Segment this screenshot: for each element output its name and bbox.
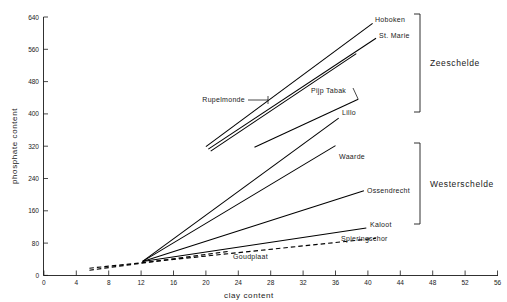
x-tick-label-24: 24 [235, 279, 243, 286]
y-axis-title: phosphate content [10, 108, 19, 184]
phosphate-clay-chart: 640 560 480 400 320 240 160 80 0 [0, 0, 507, 302]
group-label-zeeschelde: Zeeschelde [430, 58, 480, 68]
x-tick-label-8: 8 [107, 279, 111, 286]
series-label-ossendrecht: Ossendrecht [367, 187, 410, 194]
x-tick-label-48: 48 [429, 279, 437, 286]
series-lines [89, 23, 376, 270]
x-tick-label-28: 28 [267, 279, 275, 286]
series-line-st-marie [208, 38, 376, 149]
series-label-waarde: Waarde [339, 153, 365, 160]
series-line-goudplaat [89, 251, 230, 270]
series-line-lillo [143, 118, 339, 261]
x-tick-label-20: 20 [202, 279, 210, 286]
y-tick-label-640: 640 [28, 14, 39, 21]
x-tick-label-4: 4 [74, 279, 78, 286]
x-tick-label-32: 32 [299, 279, 307, 286]
y-tick-group: 640 560 480 400 320 240 160 80 0 [28, 14, 48, 279]
y-tick-label-80: 80 [32, 240, 40, 247]
series-label-kaloot: Kaloot [370, 221, 392, 228]
series-label-hoboken: Hoboken [375, 16, 405, 23]
series-line-hoboken [206, 23, 373, 146]
x-tick-label-12: 12 [137, 279, 145, 286]
series-label-st-marie: St. Marie [379, 32, 410, 39]
series-line-pijp-tabak [255, 99, 359, 147]
y-tick-label-560: 560 [28, 46, 39, 53]
series-line-waarde [143, 146, 336, 262]
series-label-pijp-tabak: Pijp Tabak [311, 87, 346, 95]
x-tick-label-52: 52 [461, 279, 469, 286]
pijp-tabak-leader [353, 88, 358, 99]
series-label-spieringschor: Spieringschor [341, 235, 388, 243]
x-tick-label-0: 0 [42, 279, 46, 286]
y-tick-label-240: 240 [28, 175, 39, 182]
series-label-lillo: Lillo [342, 109, 356, 116]
chart-canvas: 640 560 480 400 320 240 160 80 0 [0, 0, 507, 302]
series-label-goudplaat: Goudplaat [233, 253, 268, 261]
group-label-westerschelde: Westerschelde [430, 179, 494, 189]
series-label-rupelmonde: Rupelmonde [202, 96, 245, 104]
y-tick-label-160: 160 [28, 207, 39, 214]
x-tick-label-16: 16 [170, 279, 178, 286]
x-tick-label-44: 44 [397, 279, 405, 286]
y-tick-label-480: 480 [28, 78, 39, 85]
group-bracket-zeeschelde: Zeeschelde [414, 14, 480, 112]
y-tick-label-320: 320 [28, 143, 39, 150]
series-labels: Hoboken St. Marie Rupelmonde Pijp Tabak … [202, 16, 410, 261]
x-tick-label-40: 40 [364, 279, 372, 286]
group-bracket-westerschelde: Westerschelde [414, 143, 494, 224]
x-axis-title: clay content [224, 291, 274, 300]
y-tick-label-0: 0 [35, 272, 39, 279]
x-tick-label-56: 56 [494, 279, 502, 286]
series-line-ossendrecht [143, 191, 364, 262]
x-tick-group: 0 4 8 12 16 20 24 28 32 36 40 44 48 52 5… [42, 271, 501, 287]
x-tick-label-36: 36 [332, 279, 340, 286]
y-tick-label-400: 400 [28, 110, 39, 117]
